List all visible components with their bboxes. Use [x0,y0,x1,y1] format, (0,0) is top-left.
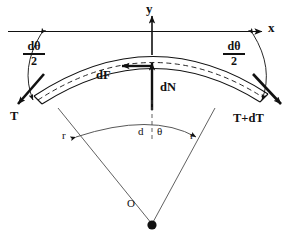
x-axis-label: x [268,21,275,34]
tension-left-arrow [18,74,44,104]
tension-right-label: T+dT [233,112,264,125]
friction-force-label: dF [96,69,111,82]
half-angle-right-label: dθ 2 [214,40,254,68]
y-axis-label: y [146,2,153,15]
center-angle-arc [76,125,196,138]
normal-force-label: dN [160,81,176,94]
radius-lines [58,108,215,224]
radius-left-label: r [62,130,66,141]
tension-left-label: T [10,110,18,123]
half-angle-left-denominator: 2 [14,55,54,68]
half-angle-arc-right [253,34,266,100]
half-angle-left-label: dθ 2 [14,40,54,68]
half-angle-right-denominator: 2 [214,55,254,68]
center-angle-d-label: d [138,126,144,137]
center-angle-theta-label: θ [157,126,162,137]
radius-right-label: r [190,130,194,141]
center-point [147,220,156,229]
half-angle-left-numerator: dθ [14,40,54,53]
half-angle-right-numerator: dθ [214,40,254,53]
belt-friction-diagram: y x dθ 2 dθ 2 dF dN T T+dT r r d θ O [0,0,299,236]
tension-right-arrow [253,74,281,104]
origin-label: O [127,198,135,209]
